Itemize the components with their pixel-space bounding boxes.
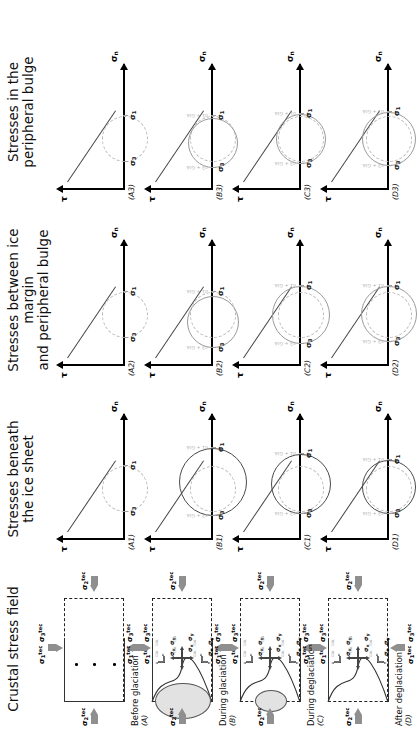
column-header-beneath-line2: the ice sheet bbox=[21, 404, 36, 554]
mohr-label-sigma1: σ1 bbox=[304, 449, 313, 458]
mohr-panel-D2: σnτσ3σ1σ3 + GIAσ1 + GIA(D2) bbox=[316, 230, 401, 380]
column-header-between-line1: Stresses between ice margin bbox=[6, 216, 36, 384]
mohr-panel-id: (C3) bbox=[303, 184, 312, 200]
crust-arrow-label-right: σ2tec bbox=[344, 572, 353, 590]
mohr-panel-id: (B2) bbox=[215, 360, 224, 376]
mohr-panel-B3: σnτσ3σ1σ3 + GIAσ1 + GIA(B3) bbox=[140, 54, 225, 204]
mohr-panel-A1: σnτσ3σ1(A1) bbox=[52, 404, 137, 554]
mohr-panel-id: (C1) bbox=[303, 534, 312, 550]
mohr-label-sigma1: σ1 bbox=[392, 107, 401, 116]
crust-stage-label: Before glaciation bbox=[130, 655, 140, 726]
crust-arrow-label-top-right: σ3tec bbox=[301, 624, 310, 642]
mohr-axis-label-tau: τ bbox=[59, 372, 69, 378]
mohr-axis-label-sigma-n: σn bbox=[285, 401, 295, 412]
crust-arrow-label-right: σ2tec bbox=[256, 572, 265, 590]
mohr-axis-label-sigma-n: σn bbox=[373, 227, 383, 238]
crust-arrow-label-left: σ2tec bbox=[168, 708, 177, 726]
crust-stage-label: During glaciation bbox=[218, 654, 228, 726]
mohr-panel-D1: σnτσ3σ1σ3 + GIAσ1 + GIA(D1) bbox=[316, 404, 401, 554]
mohr-circle-gia bbox=[362, 112, 416, 166]
mohr-label-sigma3-gia: σ3 + GIA bbox=[275, 511, 296, 516]
mohr-axis-label-tau: τ bbox=[323, 196, 333, 202]
crust-arrow-label-right: σ2tec bbox=[168, 572, 177, 590]
mohr-label-sigma3: σ3 bbox=[128, 157, 137, 166]
mohr-axis-tau bbox=[151, 364, 213, 366]
mohr-axis-label-tau: τ bbox=[147, 196, 157, 202]
mohr-label-sigma3-gia: σ3 + GIA bbox=[275, 161, 296, 166]
mohr-axis-tau bbox=[239, 188, 301, 190]
mohr-panel-D3: σnτσ3σ1σ3 + GIAσ1 + GIA(D3) bbox=[316, 54, 401, 204]
column-header-bulge-line2: peripheral bulge bbox=[21, 37, 36, 187]
mohr-label-sigma1-gia: σ1 + GIA bbox=[187, 445, 208, 450]
column-header-between-line2: and peripheral bulge bbox=[36, 216, 51, 384]
mohr-axis-tau bbox=[327, 538, 389, 540]
mohr-axis-tau bbox=[151, 188, 213, 190]
mohr-axis-label-tau: τ bbox=[323, 372, 333, 378]
mohr-label-sigma1: σ1 bbox=[128, 287, 137, 296]
mohr-label-sigma1-gia: σ1 + GIA bbox=[363, 457, 384, 462]
mohr-label-sigma3-gia: σ3 + GIA bbox=[275, 341, 296, 346]
mohr-axis-label-tau: τ bbox=[59, 546, 69, 552]
mohr-axis-label-sigma-n: σn bbox=[197, 51, 207, 62]
mohr-axis-label-sigma-n: σn bbox=[197, 227, 207, 238]
crust-arrow-label-top-right: σ3tec bbox=[213, 624, 222, 642]
mohr-panel-id: (A3) bbox=[127, 184, 136, 200]
mohr-panel-id: (B1) bbox=[215, 534, 224, 550]
mohr-axis-tau bbox=[327, 188, 389, 190]
stress-label-sigma-y: σy bbox=[382, 638, 390, 646]
mohr-label-sigma1: σ1 bbox=[216, 111, 225, 120]
mohr-circle-gia bbox=[361, 286, 417, 342]
mohr-axis-label-tau: τ bbox=[323, 546, 333, 552]
crust-arrow-label-bottom-right: σ3tec bbox=[406, 624, 415, 642]
crust-arrow-label-top-right: σ3tec bbox=[37, 624, 46, 642]
crust-block-outline bbox=[64, 598, 124, 702]
column-header-crustal: Crustal stress field bbox=[6, 574, 21, 724]
mohr-label-sigma3: σ3 bbox=[304, 509, 313, 518]
mohr-label-sigma1-gia: σ1 + GIA bbox=[275, 451, 296, 456]
mohr-panel-A2: σnτσ3σ1(A2) bbox=[52, 230, 137, 380]
mohr-axis-label-sigma-n: σn bbox=[109, 401, 119, 412]
mohr-panel-id: (A2) bbox=[127, 360, 136, 376]
mohr-panel-C3: σnτσ3σ1σ3 + GIAσ1 + GIA(C3) bbox=[228, 54, 313, 204]
mohr-label-sigma1-gia: σ1 + GIA bbox=[275, 111, 296, 116]
mohr-axis-label-sigma-n: σn bbox=[197, 401, 207, 412]
mohr-axis-tau bbox=[239, 538, 301, 540]
mohr-axis-tau bbox=[63, 188, 125, 190]
mohr-label-sigma3: σ3 bbox=[128, 507, 137, 516]
mohr-panel-A3: σnτσ3σ1(A3) bbox=[52, 54, 137, 204]
mohr-axis-label-sigma-n: σn bbox=[373, 401, 383, 412]
mohr-label-sigma3-gia: σ3 + GIA bbox=[187, 345, 208, 350]
crust-arrow-label-top-left: σ1tec bbox=[301, 646, 310, 664]
mohr-label-sigma1-gia: σ1 + GIA bbox=[275, 283, 296, 288]
mohr-axis-label-tau: τ bbox=[59, 196, 69, 202]
mohr-label-sigma1: σ1 bbox=[216, 287, 225, 296]
mohr-axis-label-sigma-n: σn bbox=[285, 227, 295, 238]
mohr-label-sigma1: σ1 bbox=[128, 111, 137, 120]
mohr-label-sigma1-gia: σ1 + GIA bbox=[187, 289, 208, 294]
mohr-axis-tau bbox=[327, 364, 389, 366]
mohr-label-sigma1-gia: σ1 + GIA bbox=[187, 113, 208, 118]
crust-arrow-label-left: σ2tec bbox=[256, 708, 265, 726]
mohr-axis-label-tau: τ bbox=[235, 372, 245, 378]
mohr-panel-id: (D2) bbox=[391, 359, 400, 376]
crust-stage-label: After deglaciation bbox=[394, 652, 404, 726]
mohr-label-sigma3-gia: σ3 + GIA bbox=[187, 165, 208, 170]
column-header-bulge: Stresses in the peripheral bulge bbox=[6, 37, 36, 187]
crust-arrow-label-top-left: σ1tec bbox=[37, 646, 46, 664]
mohr-label-sigma3: σ3 bbox=[128, 333, 137, 342]
mohr-circle-gia bbox=[362, 460, 416, 514]
crust-arrow-label-right: σ2tec bbox=[80, 572, 89, 590]
mohr-panel-id: (B3) bbox=[215, 184, 224, 200]
mohr-axis-tau bbox=[151, 538, 213, 540]
mohr-label-sigma3: σ3 bbox=[392, 509, 401, 518]
mohr-label-sigma1: σ1 bbox=[304, 109, 313, 118]
mohr-label-sigma1: σ1 bbox=[392, 455, 401, 464]
crust-arrow-label-left: σ2tec bbox=[80, 708, 89, 726]
crust-arrow-label-left: σ2tec bbox=[344, 708, 353, 726]
mohr-axis-label-sigma-n: σn bbox=[109, 227, 119, 238]
mohr-axis-tau bbox=[63, 364, 125, 366]
mohr-label-sigma3: σ3 bbox=[304, 159, 313, 168]
mohr-axis-label-tau: τ bbox=[147, 372, 157, 378]
mohr-panel-B2: σnτσ3σ1σ3 + GIAσ1 + GIA(B2) bbox=[140, 230, 225, 380]
